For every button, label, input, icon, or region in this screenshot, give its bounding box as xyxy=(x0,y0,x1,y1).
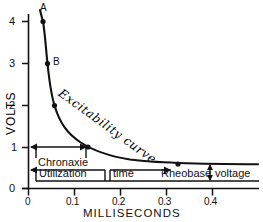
x-tick-label-0-4: 0.4 xyxy=(204,197,217,207)
point-a-label: A xyxy=(40,3,47,13)
excitability-curve-path xyxy=(40,10,258,164)
x-tick-label-0-3: 0.3 xyxy=(158,197,171,207)
y-tick-label-0: 0 xyxy=(9,183,15,194)
excitability-curve-figure: 4 3 2 1 0 0 0.1 0.2 0.3 0.4 VOLTS MILLIS… xyxy=(0,0,263,222)
voltage-label: voltage xyxy=(215,168,250,179)
y-tick-label-1: 1 xyxy=(11,142,17,153)
time-label: time xyxy=(113,168,134,179)
data-point-b xyxy=(45,61,50,66)
x-tick-label-0-1: 0.1 xyxy=(66,197,79,207)
x-tick-marks xyxy=(29,189,213,196)
data-point-2v xyxy=(52,103,57,108)
rheobase-label: Rheobase xyxy=(161,168,211,179)
data-point-rheobase xyxy=(175,161,180,166)
x-tick-label-0-2: 0.2 xyxy=(112,197,125,207)
y-axis-title: VOLTS xyxy=(4,92,18,135)
x-tick-label-0: 0 xyxy=(25,197,30,207)
data-point-a xyxy=(40,19,45,24)
utilization-label: Utilization xyxy=(39,168,87,179)
x-axis-title: MILLISECONDS xyxy=(83,208,181,220)
y-tick-label-4: 4 xyxy=(9,16,15,27)
y-tick-marks xyxy=(22,22,29,189)
chart-canvas xyxy=(0,0,263,222)
point-b-label: B xyxy=(53,57,60,67)
y-tick-label-3: 3 xyxy=(9,58,15,69)
